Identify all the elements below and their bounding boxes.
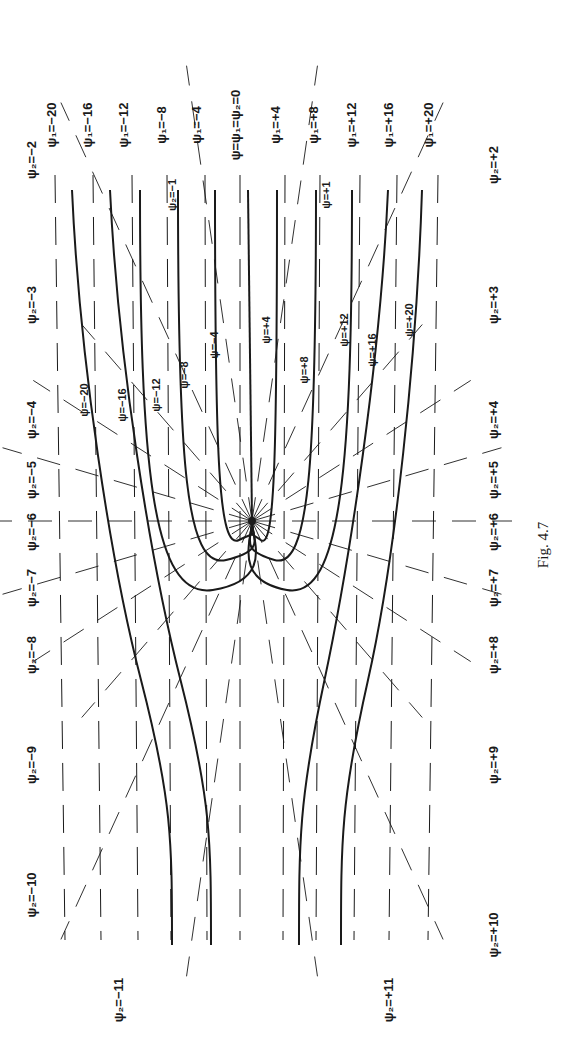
source-point-icon xyxy=(248,517,256,525)
psi1-label: ψ₁=+8 xyxy=(306,106,321,144)
streamline-psi-minus-20 xyxy=(72,190,172,945)
inline-label: ψ=−8 xyxy=(178,361,190,388)
inline-label: ψ=+4 xyxy=(260,315,272,343)
radial-line xyxy=(252,521,443,939)
streamline-psi-minus-4 xyxy=(215,190,253,541)
psi2-left-label: ψ₂=−3 xyxy=(24,286,39,324)
uniform-flow-line xyxy=(428,175,438,940)
radial-line xyxy=(252,325,422,521)
flow-field-figure: ψ₁=−20ψ₁=−16ψ₁=−12ψ₁=−8ψ₁=−4ψ=ψ₁=ψ₂=0ψ₁=… xyxy=(0,0,572,1053)
streamline-psi-minus-16 xyxy=(110,190,211,945)
radial-line xyxy=(82,325,252,521)
psi1-label: ψ₁=+16 xyxy=(381,103,396,148)
uniform-flow-line xyxy=(205,175,207,940)
streamline-psi-zero xyxy=(248,190,252,521)
psi2-right-label: ψ₂=+9 xyxy=(486,746,501,784)
inline-label: ψ₂=−1 xyxy=(166,179,178,211)
psi1-label: ψ₁=+12 xyxy=(344,103,359,148)
psi1-label: ψ₁=−4 xyxy=(189,105,204,143)
inline-label: ψ=−20 xyxy=(78,383,90,416)
psi2-left-label: ψ₂=−8 xyxy=(24,636,39,674)
inline-label: ψ=+12 xyxy=(338,313,350,346)
psi2-left-label: ψ₂=−2 xyxy=(24,141,39,179)
radial-line xyxy=(61,521,252,939)
uniform-flow-line xyxy=(316,175,320,940)
psi2-right-label: ψ₂=+10 xyxy=(486,912,501,957)
psi2-right-label: ψ₂=+6 xyxy=(486,513,501,551)
uniform-flow-line xyxy=(354,175,360,940)
psi2-right-label: ψ₂=+5 xyxy=(486,461,501,499)
uniform-flow-line xyxy=(132,175,138,940)
radial-line xyxy=(3,521,252,594)
psi2-right-label: ψ₂=+2 xyxy=(486,146,501,184)
streamline-curves xyxy=(72,190,422,945)
inline-label: ψ=+8 xyxy=(298,356,310,383)
radial-line xyxy=(252,448,501,521)
psi2-labels-right: ψ₂=+2ψ₂=+3ψ₂=+4ψ₂=+5ψ₂=+6ψ₂=+7ψ₂=+8ψ₂=+9… xyxy=(381,146,501,1022)
psi1-label: ψ₁=−8 xyxy=(154,106,169,144)
psi2-right-label: ψ₂=+11 xyxy=(381,978,396,1023)
psi2-left-label: ψ₂=−10 xyxy=(24,872,39,917)
figure-caption: Fig. 4.7 xyxy=(535,521,551,568)
radial-line xyxy=(61,103,252,521)
inline-label: ψ=−4 xyxy=(208,330,220,358)
psi2-left-label: ψ₂=−11 xyxy=(111,978,126,1023)
psi2-right-label: ψ₂=+8 xyxy=(486,636,501,674)
inline-label: ψ=+20 xyxy=(403,303,415,336)
inline-label: ψ=+16 xyxy=(366,333,378,366)
inline-label: ψ=−16 xyxy=(116,388,128,421)
radial-line xyxy=(33,521,252,662)
psi1-labels: ψ₁=−20ψ₁=−16ψ₁=−12ψ₁=−8ψ₁=−4ψ=ψ₁=ψ₂=0ψ₁=… xyxy=(44,90,436,161)
psi2-labels-left: ψ₂=−2ψ₂=−3ψ₂=−4ψ₂=−5ψ₂=−6ψ₂=−7ψ₂=−8ψ₂=−9… xyxy=(24,141,126,1022)
psi1-label: ψ₁=−12 xyxy=(116,103,131,148)
psi1-label: ψ₁=−16 xyxy=(80,103,95,148)
psi1-label: ψ₁=+20 xyxy=(421,103,436,148)
radial-line xyxy=(3,448,252,521)
psi2-right-label: ψ₂=+7 xyxy=(486,569,501,607)
psi1-label: ψ₁=+4 xyxy=(268,105,283,143)
psi2-left-label: ψ₂=−5 xyxy=(24,461,39,499)
radial-line xyxy=(252,521,501,594)
psi2-left-label: ψ₂=−7 xyxy=(24,569,39,607)
psi2-left-label: ψ₂=−9 xyxy=(24,746,39,784)
uniform-flow-line xyxy=(55,175,65,940)
psi-inline-labels: ψ₂=−1ψ=+1ψ=−20ψ=−16ψ=−12ψ=−8ψ=−4ψ=+4ψ=+8… xyxy=(78,179,415,422)
psi2-right-label: ψ₂=+3 xyxy=(486,286,501,324)
uniform-flow-line xyxy=(93,175,101,940)
psi1-label: ψ=ψ₁=ψ₂=0 xyxy=(228,90,243,161)
psi2-right-label: ψ₂=+4 xyxy=(486,400,501,439)
psi1-label: ψ₁=−20 xyxy=(44,103,59,148)
radial-line xyxy=(252,521,471,662)
inline-label: ψ=−12 xyxy=(150,378,162,411)
streamline-psi-plus-4 xyxy=(251,190,277,541)
psi2-left-label: ψ₂=−6 xyxy=(24,513,39,551)
psi2-left-label: ψ₂=−4 xyxy=(24,400,39,439)
inline-label: ψ=+1 xyxy=(320,181,332,208)
